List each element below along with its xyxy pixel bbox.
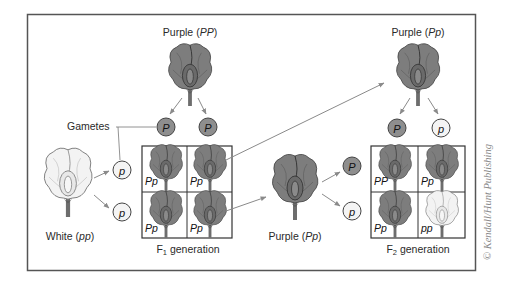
f1-cell-genotype: Pp (145, 175, 158, 187)
gamete-white-parent-1: p (113, 161, 132, 180)
arrow-white-to-gamete-1 (94, 171, 109, 178)
gamete-white-parent-2: p (113, 203, 132, 222)
white-parent-label: White (pp) (46, 230, 94, 242)
gametes-label: Gametes (67, 120, 110, 132)
f1-cell-genotype: Pp (145, 222, 158, 234)
copyright-notice: © Kendall/Hunt Publishing (482, 144, 493, 260)
f2-cell-genotype: Pp (374, 222, 387, 234)
gametes-connector-branch (118, 127, 120, 160)
arrow-f1-to-top-right-parent (226, 83, 384, 160)
f2-cell-genotype: pp (421, 222, 433, 234)
arrow-pp-to-gamete-2 (198, 98, 206, 114)
f1-cell-genotype: Pp (190, 222, 203, 234)
f1-generation-label: F1 generation (156, 243, 219, 257)
gamete-f1-top-parent-1: P (388, 119, 407, 138)
f2-generation-label: F2 generation (386, 243, 449, 257)
arrow-middle-to-gamete-1 (322, 172, 340, 182)
arrow-topright-to-gamete-1 (400, 98, 410, 114)
gamete-f1-left-parent-1: P (343, 157, 362, 176)
f1-top-parent-label: Purple (Pp) (391, 26, 444, 38)
f2-cell-genotype: Pp (421, 175, 434, 187)
f2-cell-genotype: PP (374, 175, 388, 187)
arrow-topright-to-gamete-2 (428, 98, 438, 114)
arrow-middle-to-gamete-2 (322, 194, 340, 206)
purple-parent-flower (169, 44, 212, 106)
purple-parent-label: Purple (PP) (163, 26, 217, 38)
gamete-f1-left-parent-2: p (343, 202, 362, 221)
f1-left-parent-flower (272, 154, 317, 220)
gamete-f1-top-parent-2: p (432, 119, 451, 138)
f1-top-parent-flower (397, 44, 440, 106)
f1-cell-genotype: Pp (190, 175, 203, 187)
gamete-purple-parent-1: P (157, 118, 176, 137)
gamete-purple-parent-2: P (199, 118, 218, 137)
arrow-white-to-gamete-2 (94, 195, 109, 208)
f1-left-parent-label: Purple (Pp) (268, 230, 321, 242)
white-parent-flower (44, 148, 92, 217)
arrow-pp-to-gamete-1 (170, 98, 182, 114)
